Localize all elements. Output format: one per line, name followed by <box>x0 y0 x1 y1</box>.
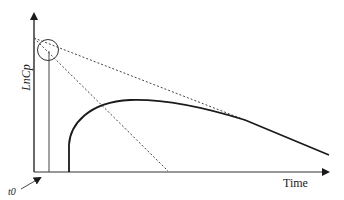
pk-diagram <box>0 0 344 200</box>
intercept-circle <box>38 40 59 61</box>
y-axis-label: LnCp <box>19 58 34 98</box>
x-axis-label: Time <box>283 176 308 191</box>
concentration-curve <box>69 100 329 172</box>
terminal-extrapolation-line <box>34 38 245 120</box>
t0-label: t0 <box>8 186 16 197</box>
t0-arrow <box>21 178 40 189</box>
